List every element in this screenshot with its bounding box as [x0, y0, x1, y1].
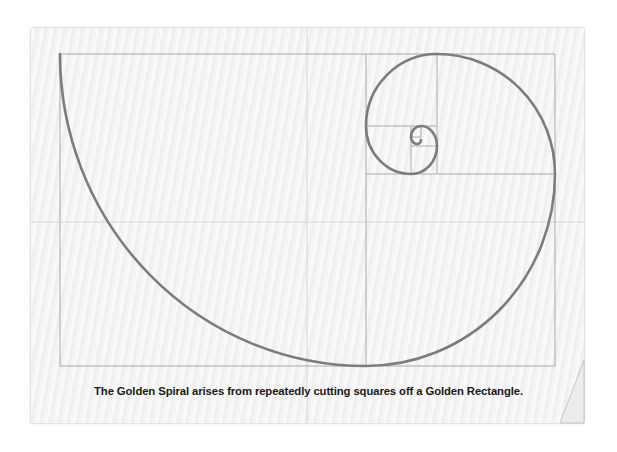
- paper-folds: [31, 28, 584, 423]
- caption: The Golden Spiral arises from repeatedly…: [0, 385, 617, 397]
